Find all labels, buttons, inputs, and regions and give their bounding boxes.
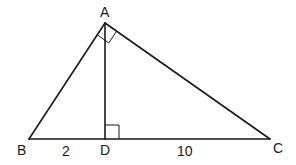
segment-ab <box>29 23 105 139</box>
vertex-label-b: B <box>17 142 26 158</box>
vertex-label-d: D <box>100 142 110 158</box>
right-angle-marker-a <box>97 31 116 43</box>
length-label-bd: 2 <box>62 143 70 159</box>
diagram-canvas: A B D C 2 10 <box>0 0 296 165</box>
right-angle-marker-d <box>105 125 119 139</box>
segment-ac <box>105 23 270 139</box>
vertex-label-a: A <box>100 4 110 20</box>
vertex-label-c: C <box>273 140 283 156</box>
triangle-diagram: A B D C 2 10 <box>0 0 296 165</box>
length-label-dc: 10 <box>177 143 193 159</box>
